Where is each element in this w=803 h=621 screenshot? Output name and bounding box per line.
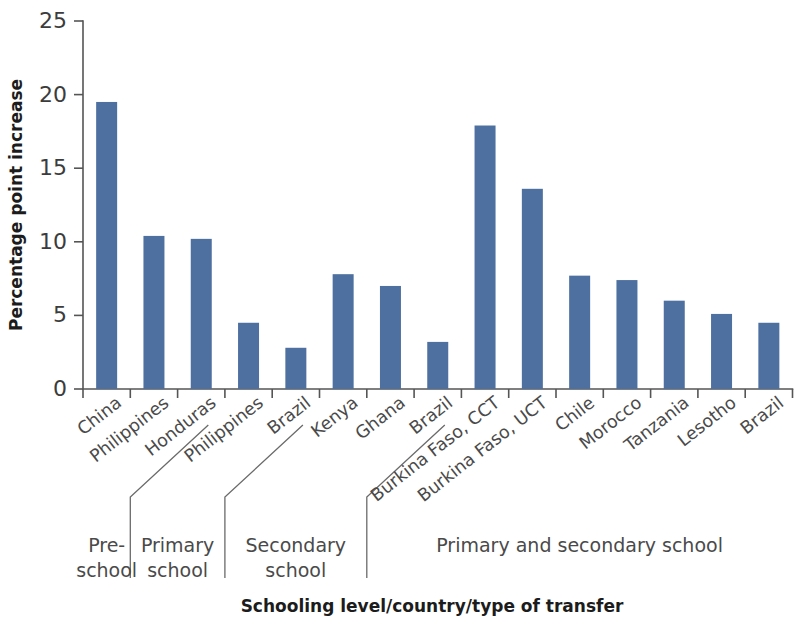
group-label: school bbox=[76, 559, 137, 581]
bar bbox=[569, 276, 590, 389]
x-axis-title: Schooling level/country/type of transfer bbox=[241, 596, 624, 616]
axis-lines bbox=[83, 21, 793, 389]
category-labels: ChinaPhilippinesHondurasPhilippinesBrazi… bbox=[73, 392, 787, 506]
category-label: Brazil bbox=[737, 392, 788, 438]
y-tick-label-20: 20 bbox=[39, 82, 67, 107]
bar bbox=[96, 102, 117, 389]
bar bbox=[427, 342, 448, 389]
bar-chart-figure: 0510152025 ChinaPhilippinesHondurasPhili… bbox=[0, 0, 803, 621]
bar bbox=[238, 323, 259, 389]
group-label: school bbox=[265, 559, 326, 581]
bar bbox=[616, 280, 637, 389]
group-label: Primary and secondary school bbox=[436, 534, 723, 556]
group-label: Pre- bbox=[88, 534, 125, 556]
y-tick-label-5: 5 bbox=[53, 302, 67, 327]
y-tick-label-15: 15 bbox=[39, 155, 67, 180]
category-label: Ghana bbox=[352, 392, 409, 443]
bar bbox=[333, 274, 354, 389]
y-axis-title: Percentage point increase bbox=[6, 79, 26, 331]
bar bbox=[191, 239, 212, 389]
chart-canvas: 0510152025 ChinaPhilippinesHondurasPhili… bbox=[0, 0, 803, 621]
y-tick-label-0: 0 bbox=[53, 376, 67, 401]
bar bbox=[143, 236, 164, 389]
group-label: Primary bbox=[141, 534, 214, 556]
category-label: Kenya bbox=[307, 392, 362, 441]
group-label: Secondary bbox=[245, 534, 346, 556]
bar bbox=[380, 286, 401, 389]
y-tick-label-25: 25 bbox=[39, 8, 67, 33]
bar bbox=[475, 126, 496, 389]
bar bbox=[664, 301, 685, 389]
y-tick-labels: 0510152025 bbox=[39, 8, 67, 401]
bar bbox=[285, 348, 306, 389]
group-label: school bbox=[147, 559, 208, 581]
bar bbox=[758, 323, 779, 389]
group-labels: Pre-schoolPrimaryschoolSecondaryschoolPr… bbox=[76, 534, 723, 581]
y-tick-label-10: 10 bbox=[39, 229, 67, 254]
bars-group bbox=[96, 102, 779, 389]
bar bbox=[711, 314, 732, 389]
bar bbox=[522, 189, 543, 389]
category-label: Brazil bbox=[264, 392, 315, 438]
